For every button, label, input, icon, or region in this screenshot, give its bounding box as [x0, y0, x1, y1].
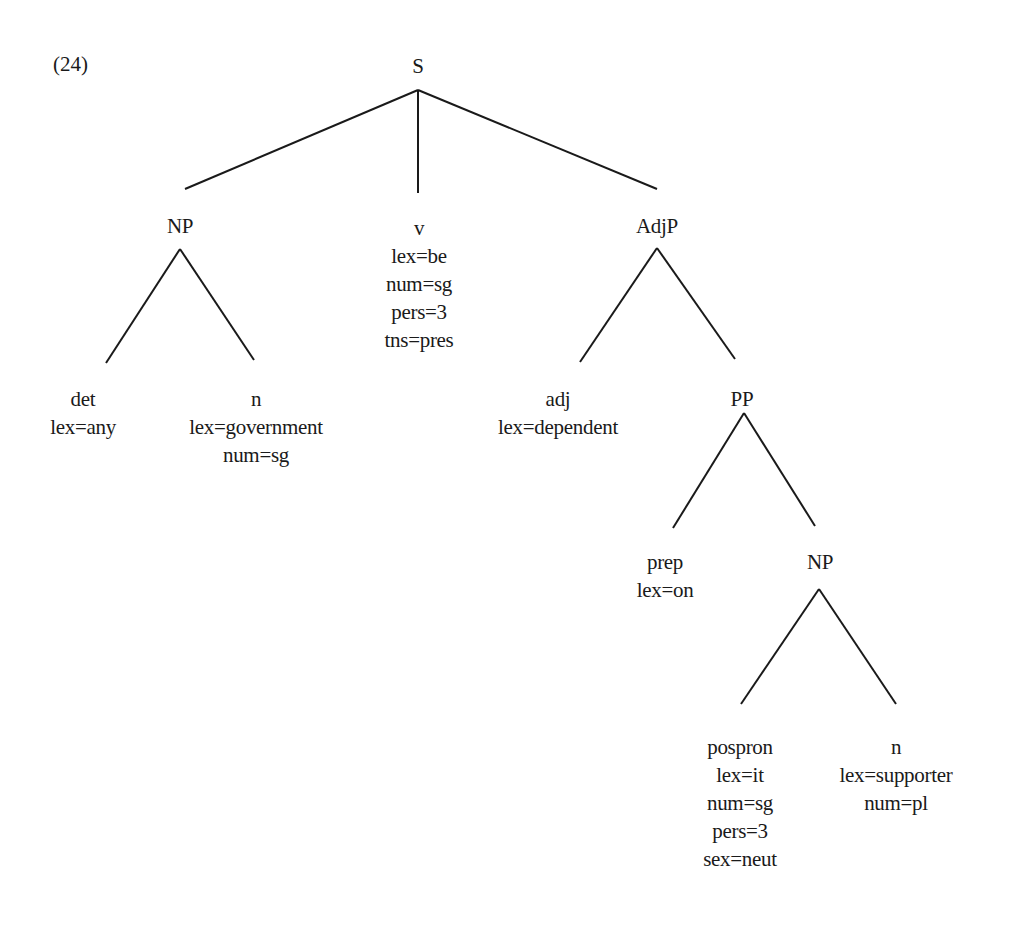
node-category: NP: [807, 548, 833, 576]
node-category: PP: [731, 385, 754, 413]
tree-node-n1: nlex=governmentnum=sg: [189, 385, 323, 469]
node-category: n: [840, 733, 953, 761]
edge-np1-n1: [180, 249, 254, 360]
tree-node-np1: NP: [167, 212, 193, 240]
node-feature: num=sg: [703, 789, 777, 817]
edge-s-np1: [185, 90, 418, 189]
edge-np2-n2: [819, 589, 896, 704]
node-feature: lex=supporter: [840, 761, 953, 789]
edge-np2-pospron: [741, 589, 819, 704]
node-category: det: [50, 385, 116, 413]
tree-node-pp: PP: [731, 385, 754, 413]
node-feature: lex=on: [637, 576, 694, 604]
tree-node-n2: nlex=supporternum=pl: [840, 733, 953, 817]
edge-pp-prep: [673, 413, 744, 528]
tree-node-adj: adjlex=dependent: [498, 385, 618, 441]
node-feature: pers=3: [385, 298, 454, 326]
tree-node-adjp: AdjP: [636, 212, 678, 240]
edge-pp-np2: [744, 413, 815, 526]
edge-adjp-adj: [580, 248, 657, 362]
node-feature: lex=be: [385, 242, 454, 270]
edge-s-adjp: [418, 90, 657, 189]
node-category: S: [412, 52, 423, 80]
tree-node-prep: preplex=on: [637, 548, 694, 604]
edge-adjp-pp: [657, 248, 735, 359]
edge-np1-det: [106, 249, 180, 363]
node-feature: lex=dependent: [498, 413, 618, 441]
tree-node-np2: NP: [807, 548, 833, 576]
node-feature: num=pl: [840, 789, 953, 817]
node-category: v: [385, 214, 454, 242]
node-category: NP: [167, 212, 193, 240]
node-category: pospron: [703, 733, 777, 761]
tree-node-v: vlex=benum=sgpers=3tns=pres: [385, 214, 454, 354]
node-feature: sex=neut: [703, 845, 777, 873]
tree-node-det: detlex=any: [50, 385, 116, 441]
node-feature: lex=government: [189, 413, 323, 441]
node-feature: lex=it: [703, 761, 777, 789]
node-category: prep: [637, 548, 694, 576]
node-category: adj: [498, 385, 618, 413]
node-feature: pers=3: [703, 817, 777, 845]
node-feature: num=sg: [385, 270, 454, 298]
node-feature: tns=pres: [385, 326, 454, 354]
node-feature: num=sg: [189, 441, 323, 469]
node-category: AdjP: [636, 212, 678, 240]
node-feature: lex=any: [50, 413, 116, 441]
tree-node-s: S: [412, 52, 423, 80]
node-category: n: [189, 385, 323, 413]
tree-node-pospron: pospronlex=itnum=sgpers=3sex=neut: [703, 733, 777, 873]
